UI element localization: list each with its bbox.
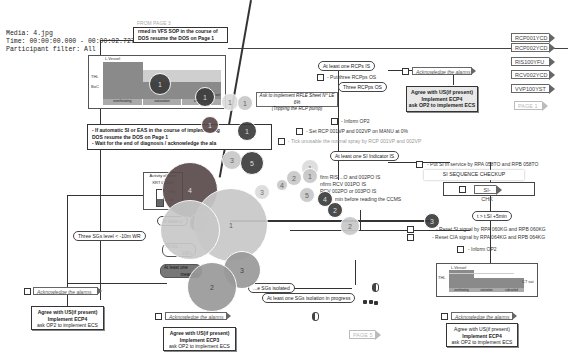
si-chk-link[interactable]: SI-CHK <box>474 185 496 194</box>
checkbox-put-si[interactable] <box>416 161 423 168</box>
si-confirm2: nfirm RCV 001PO IS <box>320 181 366 187</box>
phase-subcooled: subcooled <box>499 288 524 292</box>
checkbox-reset-cia[interactable] <box>407 234 414 241</box>
vfs-note: rmed in VFS SOP in the course of DOS res… <box>133 27 228 43</box>
agree-ecp3-bottom-mid: Agree with US(if present) Implement ECP3… <box>163 327 236 351</box>
si-auto-line3: - Wait for the end of diagnosis / acknow… <box>92 140 271 147</box>
agree-line3: ask OP2 to implement ECS <box>407 102 477 109</box>
tag-ris100yfu[interactable]: RIS100YFU <box>511 57 549 66</box>
checkbox-ack-bottom-left[interactable] <box>24 288 31 295</box>
reset-cia-text: - Reset CIA signal by RPA 064KG and RPB … <box>432 234 545 240</box>
ack-alarms-bottom-left[interactable]: Acknowledge the alarms <box>33 287 98 295</box>
vessel-level-chart-bottom: L.Vessel THL overheating saturation subc… <box>436 263 538 297</box>
inform-op2-text: - Inform OP2 <box>341 118 370 124</box>
gaze-fixation-circle: 2 <box>187 262 237 312</box>
checkbox-si-chk[interactable] <box>459 186 466 193</box>
recording-metadata: Media: 4.jpgTime: 00:00:00.000 - 00:00:0… <box>6 30 135 54</box>
gaze-fixation-circle: 5 <box>240 151 264 175</box>
gaze-fixation-circle: 3 <box>222 150 242 170</box>
agree-line3: ask OP2 to implement ECS <box>164 343 235 350</box>
si-confirm1: firm RIS ...O and 002PO IS <box>320 174 380 180</box>
tick-thl: THL <box>91 74 99 79</box>
t-lsi-5min: t > t.SI +5min <box>472 211 512 221</box>
put-three-rcp-text: - Put three RCPps OS <box>327 74 376 80</box>
ask-rfle-line2: (Tripping the RCP pump) <box>257 106 337 113</box>
checkbox-tick-unusable[interactable] <box>278 138 285 145</box>
ask-rfle-line1: Ask to implement RFLE Sheet N° LE 6% <box>257 93 337 106</box>
phase-overheating: overheating <box>449 288 474 292</box>
reset-si-text: - Reset SI signal by RPA 060KG and RPB 0… <box>436 226 546 232</box>
ack-alarms-top[interactable]: Acknowledge the alarms <box>412 67 472 75</box>
tag-rcp001ycd[interactable]: RCP001YCD <box>511 33 549 42</box>
ask-rfle-box[interactable]: Ask to implement RFLE Sheet N° LE 6% (Tr… <box>256 92 338 107</box>
agree-line3: ask OP2 to implement ECS <box>447 339 517 346</box>
checkbox-ack-bottom-right[interactable] <box>441 313 448 320</box>
tag-rcv002ycd[interactable]: RCV002YCD <box>511 70 549 79</box>
put-si-text: - Put SI in service by RPA 058TO and RPB… <box>427 161 538 167</box>
chart-phase-bar: overheating saturation subcooled <box>449 288 524 292</box>
checkbox-ack-bottom-mid[interactable] <box>155 313 162 320</box>
rcp-at-least-one-is[interactable]: At least one RCPs IS <box>318 61 375 71</box>
inform-op2-si-text: - Inform OP2 <box>468 246 497 252</box>
three-sgs-level[interactable]: Three SGs level < -10m WR <box>73 231 146 241</box>
checkbox-set-rcp[interactable] <box>296 128 303 135</box>
gaze-fixation-circle: 2 <box>286 170 302 186</box>
ack-alarms-bottom-mid[interactable]: Acknowledge the alarms <box>165 312 227 320</box>
checkbox-inform-op2[interactable] <box>331 118 338 125</box>
phase-saturation: saturation <box>143 99 183 105</box>
tick-thl: THL <box>438 275 446 280</box>
mouse-icon <box>372 283 379 292</box>
gaze-fixation-circle: 1 <box>195 87 215 107</box>
connector <box>67 283 167 284</box>
chart-band <box>449 273 514 274</box>
gaze-fixation-circle: 1 <box>302 168 318 184</box>
sg-isolation-in-progress[interactable]: At least one SGs isolation in progress <box>262 293 355 303</box>
phase-overheating: overheating <box>103 99 143 105</box>
y-axis-label: L.Vessel <box>105 56 120 61</box>
phase-saturation: saturation <box>474 288 499 292</box>
mouse-icon <box>312 312 319 321</box>
gaze-fixation-circle: 3 <box>424 213 440 229</box>
gaze-fixation-circle: 1 <box>237 121 257 141</box>
agree-ecp4-top: Agree with US(if present) Implement ECP4… <box>406 86 478 112</box>
agree-line1: Agree with US(if present) <box>164 330 235 337</box>
connector <box>355 260 356 285</box>
si-seq-checkup: SI SEQUENCE CHECKUP <box>424 170 524 180</box>
group-people-icon <box>362 299 378 311</box>
tag-vvp100yst[interactable]: VVP100YST <box>511 84 549 93</box>
three-rcp-os[interactable]: Three RCPps OS <box>338 82 387 92</box>
set-label: set <box>215 92 220 97</box>
agree-line1: Agree with US(if present) <box>407 89 477 96</box>
agree-line1: Agree with US(if present) <box>32 309 103 316</box>
vfs-note-line1: rmed in VFS SOP in the course of <box>138 28 227 35</box>
agree-line3: ask OP2 to implement ECS <box>32 322 103 329</box>
gaze-fixation-circle: 2 <box>327 202 343 218</box>
agree-line1: Agree with US(if present) <box>447 326 517 333</box>
gaze-fixation-circle: 1 <box>237 95 253 111</box>
page-5-link[interactable]: PAGE 5 <box>349 330 375 339</box>
checkbox-put-three-rcp[interactable] <box>317 74 324 81</box>
gaze-fixation-circle: 3 <box>254 184 270 200</box>
tag-page-1[interactable]: PAGE 1 <box>514 101 542 110</box>
ack-alarms-bottom-right[interactable]: Acknowledge the alarms <box>451 312 513 320</box>
gaze-fixation-circle: 5 <box>299 187 315 203</box>
participant-filter: Participant filter: All <box>6 46 135 54</box>
gaze-fixation-circle <box>160 200 220 260</box>
checkbox-ack-top[interactable] <box>402 68 409 75</box>
checkbox-inform-op2-si[interactable] <box>457 246 464 253</box>
media-name: Media: 4.jpg <box>6 30 135 38</box>
gaze-fixation-circle: 1 <box>201 116 219 134</box>
sgs-isolated[interactable]: ...e SGs isolated <box>248 283 295 293</box>
ct-sat-label: CT sat <box>522 279 534 284</box>
agree-ecp4-bottom-right: Agree with US(if present) Implement ECP4… <box>446 323 518 347</box>
tick-boc: BoC <box>91 84 99 89</box>
gaze-fixation-circle: 4 <box>276 179 288 191</box>
vfs-note-line2: DOS resume the DOS on Page 1 <box>138 35 227 42</box>
gaze-fixation-circle: 1 <box>149 73 171 95</box>
tag-rcp002ycd[interactable]: RCP002YCD <box>511 43 549 52</box>
connector <box>67 195 68 320</box>
tick-unusable-text: - Tick unusable the normal spray by RCP … <box>288 138 421 144</box>
agree-ecp4-bottom-left: Agree with US(if present) Implement ECP4… <box>31 306 104 330</box>
si-at-least-one[interactable]: At least one SI Indicator IS <box>330 151 399 161</box>
checkbox-reset-si[interactable] <box>407 226 414 233</box>
